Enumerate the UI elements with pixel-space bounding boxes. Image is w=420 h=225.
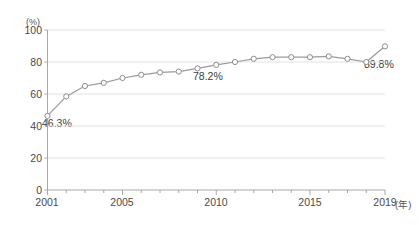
gridlines-group [48,30,386,158]
data-point-marker-2015 [307,55,312,60]
data-point-marker-2005 [120,75,125,80]
x-tick-marks-group [48,190,386,195]
data-point-marker-2009 [195,66,200,71]
data-point-marker-2013 [270,55,275,60]
data-point-marker-2004 [101,80,106,85]
data-point-marker-2010 [214,62,219,67]
axes-group [45,30,386,190]
data-point-marker-2017 [345,56,350,61]
data-point-marker-2003 [82,83,87,88]
line-chart: (%) 100 80 60 40 20 0 2001 2005 2010 201… [0,0,420,225]
data-point-marker-2019 [382,44,387,49]
data-point-marker-2014 [289,55,294,60]
data-point-marker-2001 [45,113,50,118]
data-point-marker-2012 [251,56,256,61]
series-line-group [48,46,386,116]
data-point-marker-2008 [176,69,181,74]
data-point-marker-2007 [157,70,162,75]
plot-area [0,0,420,225]
data-point-marker-2018 [364,59,369,64]
series-markers-group [45,44,388,119]
data-point-marker-2006 [139,72,144,77]
data-point-marker-2011 [232,59,237,64]
data-point-marker-2002 [64,94,69,99]
series-polyline [48,46,386,116]
data-point-marker-2016 [326,54,331,59]
